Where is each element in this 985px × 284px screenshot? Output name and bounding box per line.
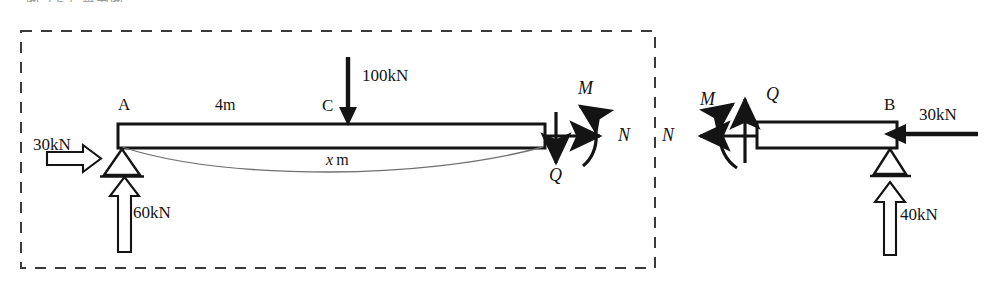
load-label-30kn-left: 30kN [33,136,71,153]
right-beam [757,122,897,148]
right-axial-label-n: N [662,126,674,144]
support-b-triangle [874,149,906,174]
reaction-label-40kn: 40kN [900,206,938,223]
point-label-c: C [322,97,333,114]
dimension-label-4m: 4m [215,97,235,113]
dimension-x-symbol: x [326,151,333,168]
free-body-diagram [0,0,985,284]
support-a-triangle [104,149,140,175]
dimension-label-x-m: x m [326,152,349,168]
load-label-100kn: 100kN [362,67,408,84]
left-beam [118,124,545,148]
point-label-a: A [118,96,130,113]
left-shear-label-q: Q [549,166,562,184]
load-label-30kn-right: 30kN [919,106,957,123]
right-moment-label-m: M [700,90,715,108]
left-moment-label-m: M [578,79,593,97]
right-shear-label-q: Q [766,85,779,103]
left-axial-label-n: N [618,126,630,144]
reaction-label-60kn: 60kN [133,204,171,221]
dimension-x-unit: m [336,151,348,168]
point-label-b: B [884,96,895,113]
